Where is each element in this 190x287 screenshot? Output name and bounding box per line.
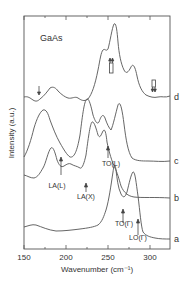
x-tick-300: 300 [143, 253, 157, 262]
annotation-to-l: TO(L) [102, 160, 120, 168]
curve-a [24, 165, 170, 239]
annotation-la-x: LA(X) [77, 193, 95, 201]
x-axis-label: Wavenumber (cm⁻¹) [61, 265, 133, 274]
raman-chart: 150 200 250 300 Wavenumber (cm⁻¹) Intens… [0, 0, 190, 287]
annotation-la-l: LA(L) [48, 182, 65, 190]
y-axis-label: Intensity (a.u.) [7, 107, 16, 158]
curve-label-c: c [174, 156, 179, 166]
x-tick-150: 150 [17, 253, 31, 262]
x-ticks [24, 16, 150, 249]
curve-label-a: a [174, 234, 179, 244]
annotation-lo-gamma: LO(Γ) [129, 234, 147, 242]
curve-label-d: d [174, 92, 179, 102]
annotation-to-gamma: TO(Γ) [115, 220, 133, 228]
up-double-arrow-icon [109, 58, 114, 73]
curve-b [24, 122, 170, 198]
down-double-arrow-icon [151, 80, 156, 92]
x-tick-200: 200 [59, 253, 73, 262]
curve-label-b: b [174, 193, 179, 203]
x-tick-250: 250 [101, 253, 115, 262]
chart-title: GaAs [40, 33, 63, 43]
